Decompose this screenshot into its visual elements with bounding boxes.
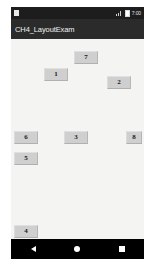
button-8[interactable]: 8 bbox=[126, 131, 142, 144]
notification-square-icon bbox=[14, 10, 19, 16]
button-5[interactable]: 5 bbox=[14, 152, 38, 165]
square-recents-icon bbox=[119, 246, 125, 252]
nav-back-button[interactable] bbox=[22, 239, 44, 259]
battery-icon bbox=[125, 10, 130, 17]
triangle-back-icon bbox=[31, 246, 36, 252]
button-7[interactable]: 7 bbox=[74, 51, 98, 64]
status-bar-left bbox=[14, 10, 19, 16]
button-4[interactable]: 4 bbox=[14, 225, 38, 238]
button-6[interactable]: 6 bbox=[14, 131, 38, 144]
nav-home-button[interactable] bbox=[66, 239, 88, 259]
android-device-screen: 7:00 CH4_LayoutExam 71263854 bbox=[11, 7, 144, 259]
status-bar-clock: 7:00 bbox=[132, 10, 141, 16]
button-3[interactable]: 3 bbox=[64, 131, 88, 144]
status-bar: 7:00 bbox=[11, 7, 144, 19]
action-bar: CH4_LayoutExam bbox=[11, 19, 144, 39]
circle-home-icon bbox=[74, 246, 80, 252]
button-2[interactable]: 2 bbox=[107, 76, 131, 89]
signal-bars-icon bbox=[116, 10, 123, 16]
layout-canvas: 71263854 bbox=[11, 39, 144, 239]
status-bar-right: 7:00 bbox=[116, 10, 141, 17]
nav-recents-button[interactable] bbox=[111, 239, 133, 259]
screenshot-root: 7:00 CH4_LayoutExam 71263854 bbox=[0, 0, 155, 266]
button-1[interactable]: 1 bbox=[44, 68, 68, 81]
app-title: CH4_LayoutExam bbox=[11, 25, 74, 34]
navigation-bar bbox=[11, 239, 144, 259]
